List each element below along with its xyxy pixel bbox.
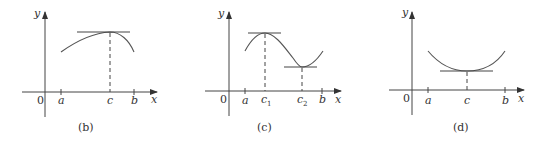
x-label: x (335, 93, 342, 106)
origin-label: 0 (37, 94, 44, 107)
y-label: y (401, 6, 409, 19)
curve (428, 51, 505, 71)
tick-label-c: c (107, 94, 113, 107)
tick-label-b: b (502, 94, 509, 107)
tick-label-a: a (58, 94, 65, 107)
tick-label-b: b (319, 93, 326, 106)
curve (61, 32, 134, 52)
panel-b: y 0 a c b x (b) (22, 7, 158, 134)
tick-label-a: a (242, 94, 249, 107)
curve (245, 33, 323, 67)
origin-label: 0 (403, 92, 410, 105)
panel-d: y 0 a c b x (d) (389, 6, 525, 134)
y-label: y (33, 7, 41, 20)
x-label: x (151, 93, 158, 106)
y-label: y (217, 7, 225, 20)
caption: (c) (257, 121, 272, 134)
tick-label-b: b (131, 94, 138, 107)
caption: (b) (78, 121, 94, 134)
x-label: x (518, 92, 525, 105)
tick-label-c: c (464, 94, 470, 107)
tick-label-c2-sub: 2 (303, 100, 307, 108)
caption: (d) (453, 121, 469, 134)
panel-c: y 0 a c 1 c 2 b x (c) (205, 7, 342, 134)
origin-label: 0 (220, 93, 227, 106)
tick-label-c1-sub: 1 (267, 100, 271, 108)
figure-canvas: y 0 a c b x (b) y 0 a c 1 c 2 b x (c) (0, 0, 542, 143)
tick-label-a: a (425, 94, 432, 107)
